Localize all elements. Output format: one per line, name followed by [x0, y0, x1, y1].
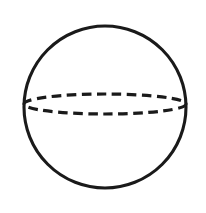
sphere-diagram-svg — [0, 0, 206, 213]
sphere-figure-canvas — [0, 0, 206, 213]
